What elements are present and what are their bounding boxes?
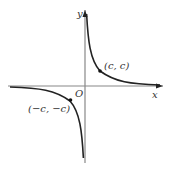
y-axis-label: y <box>76 8 83 19</box>
point-neg-c-neg-c <box>69 98 73 102</box>
point-c-c <box>98 69 102 73</box>
hyperbola-branch-quadrant-3 <box>10 87 83 158</box>
origin-label: O <box>75 88 83 99</box>
hyperbola-branch-quadrant-1 <box>87 14 160 85</box>
point-label-c-c: (c, c) <box>104 60 129 71</box>
hyperbola-diagram: y x O (c, c) (−c, −c) <box>0 0 171 171</box>
point-label-neg-c-neg-c: (−c, −c) <box>28 103 70 114</box>
x-axis-label: x <box>152 89 158 100</box>
